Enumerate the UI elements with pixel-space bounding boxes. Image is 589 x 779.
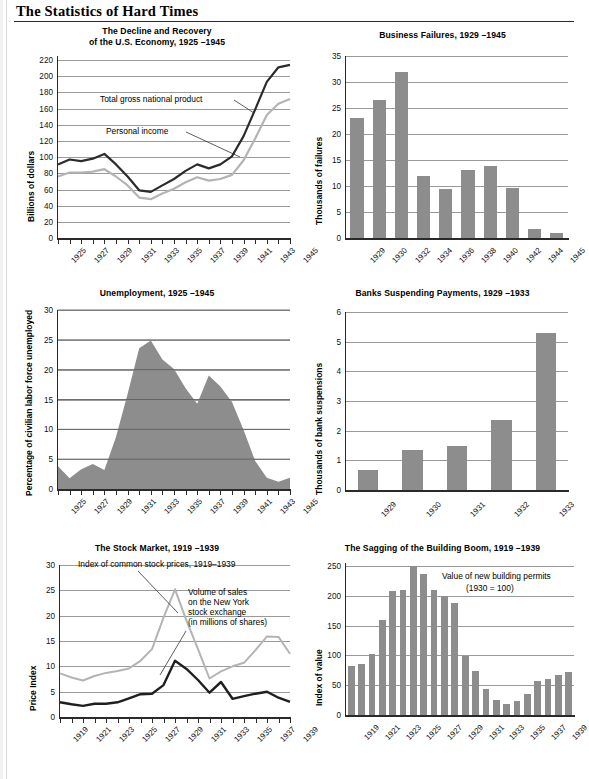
chart-title-stocks: The Stock Market, 1919 –1939 — [14, 543, 300, 554]
title-rule — [14, 21, 574, 22]
y-tick-label: 100 — [39, 153, 53, 162]
x-tick-label: 1937 — [549, 723, 568, 742]
bar — [536, 333, 556, 490]
y-tick-label: 6 — [336, 308, 341, 317]
x-tick-label: 1923 — [404, 723, 423, 742]
x-tick-mark — [152, 718, 153, 723]
chart-title-gnp: The Decline and Recovery of the U.S. Eco… — [14, 26, 300, 48]
x-tick-mark — [151, 490, 152, 495]
x-tick-label: 1933 — [162, 246, 181, 265]
x-tick-label: 1933 — [232, 725, 251, 744]
chart-panel-building: The Sagging of the Building Boom, 1919 –… — [300, 543, 585, 779]
series-line — [60, 589, 290, 680]
x-tick-mark — [70, 239, 71, 244]
y-tick-label: 220 — [39, 56, 53, 65]
bar — [410, 566, 417, 715]
x-tick-mark — [210, 718, 211, 723]
y-tick-label: 15 — [46, 637, 55, 646]
y-tick-label: 80 — [44, 169, 53, 178]
x-tick-mark — [290, 718, 291, 723]
x-tick-label: 1939 — [232, 246, 251, 265]
y-tick-label: 0 — [48, 485, 53, 494]
x-tick-mark — [279, 718, 280, 723]
x-tick-label: 1941 — [255, 497, 274, 516]
x-tick-mark — [116, 239, 117, 244]
x-tick-mark — [72, 718, 73, 723]
y-tick-label: 25 — [46, 586, 55, 595]
x-tick-label: 1929 — [466, 723, 485, 742]
bar — [350, 118, 363, 238]
y-tick-label: 35 — [332, 52, 341, 61]
plot-area-failures: 0510152025303519291930193219341936193819… — [346, 56, 568, 238]
y-tick-label: 10 — [332, 182, 341, 191]
series-line — [60, 661, 290, 706]
annotation-personal-income-label: Personal income — [106, 126, 168, 137]
x-tick-mark — [220, 239, 221, 244]
x-tick-mark — [174, 239, 175, 244]
x-tick-mark — [255, 490, 256, 495]
chart-panel-stocks: The Stock Market, 1919 –1939 Price Index… — [14, 543, 300, 779]
x-tick-label: 1929 — [116, 246, 135, 265]
x-tick-label: 1940 — [502, 246, 521, 265]
x-tick-label: 1925 — [69, 497, 88, 516]
x-tick-mark — [197, 239, 198, 244]
x-tick-mark — [232, 490, 233, 495]
y-tick-label: 150 — [327, 621, 341, 630]
plot-area-unemployment: 0510152025301925192719291931193319351937… — [58, 310, 290, 489]
series-line — [58, 65, 290, 192]
x-tick-mark — [244, 490, 245, 495]
x-tick-label: 1929 — [368, 246, 387, 265]
bar — [483, 689, 490, 715]
x-tick-label: 1939 — [570, 723, 589, 742]
bar — [389, 591, 396, 715]
plot-area-stocks: 0510152025301919192119231925192719291931… — [60, 565, 290, 717]
y-tick-label: 0 — [48, 234, 53, 243]
x-tick-label: 1929 — [379, 500, 398, 519]
x-tick-mark — [267, 490, 268, 495]
x-tick-label: 1938 — [479, 246, 498, 265]
page-left-shadow — [0, 0, 3, 779]
bar — [439, 189, 452, 238]
x-tick-mark — [197, 490, 198, 495]
x-tick-mark — [70, 490, 71, 495]
x-tick-label: 1937 — [208, 246, 227, 265]
x-axis-line — [345, 490, 569, 492]
x-tick-label: 1927 — [445, 723, 464, 742]
x-tick-label: 1942 — [524, 246, 543, 265]
y-tick-label: 30 — [332, 78, 341, 87]
plot-area-gnp: 0204060801001201401601802002201925192719… — [58, 56, 290, 238]
y-tick-label: 20 — [44, 217, 53, 226]
y-axis-label-stocks: Price Index — [28, 666, 38, 711]
y-tick-label: 5 — [336, 208, 341, 217]
x-tick-label: 1944 — [546, 246, 565, 265]
x-tick-mark — [93, 239, 94, 244]
x-tick-mark — [232, 239, 233, 244]
annotation-volume-line-1: Volume of sales — [188, 587, 247, 598]
annotation-volume-line-4: (in millions of shares) — [188, 617, 267, 628]
x-tick-label: 1933 — [162, 497, 181, 516]
annotation-leader-line — [234, 100, 254, 113]
bar — [514, 701, 521, 715]
x-tick-label: 1925 — [425, 723, 444, 742]
x-tick-mark — [139, 239, 140, 244]
y-tick-label: 30 — [46, 561, 55, 570]
x-tick-mark — [104, 490, 105, 495]
x-tick-label: 1919 — [362, 723, 381, 742]
bar — [369, 654, 376, 715]
x-tick-mark — [162, 239, 163, 244]
y-tick-label: 10 — [44, 425, 53, 434]
y-axis-label-gnp: Billions of dollars — [26, 151, 36, 222]
bar — [358, 470, 378, 490]
y-tick-label: 200 — [327, 591, 341, 600]
y-tick-label: 180 — [39, 88, 53, 97]
x-tick-label: 1931 — [139, 497, 158, 516]
x-tick-label: 1921 — [383, 723, 402, 742]
x-tick-mark — [267, 239, 268, 244]
x-tick-mark — [186, 239, 187, 244]
bar — [545, 679, 552, 715]
y-tick-label: 0 — [336, 234, 341, 243]
annotation-permits-line-2: (1930 = 100) — [466, 583, 514, 594]
x-tick-label: 1937 — [208, 497, 227, 516]
y-tick-label: 250 — [327, 562, 341, 571]
bar — [484, 166, 497, 238]
